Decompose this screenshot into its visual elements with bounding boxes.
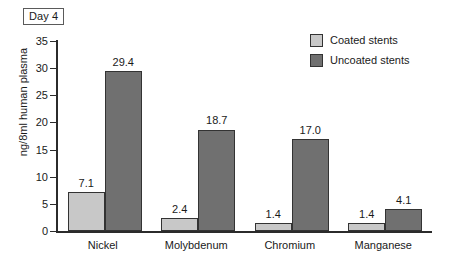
bar-manganese-uncoated[interactable] bbox=[385, 209, 422, 231]
bar-value-label: 18.7 bbox=[194, 115, 239, 126]
bar-value-label: 1.4 bbox=[251, 209, 296, 220]
category-label-manganese: Manganese bbox=[327, 239, 441, 251]
bar-chart: Day 4 ng/8ml human plasma 05101520253035… bbox=[0, 0, 449, 269]
y-tick-label: 35 bbox=[4, 36, 48, 47]
bar-value-label: 1.4 bbox=[344, 209, 389, 220]
legend-label-coated: Coated stents bbox=[330, 34, 398, 46]
y-tick-label: 10 bbox=[4, 172, 48, 183]
bar-chromium-uncoated[interactable] bbox=[292, 139, 329, 231]
bar-molybdenum-coated[interactable] bbox=[161, 218, 198, 231]
bar-molybdenum-uncoated[interactable] bbox=[198, 130, 235, 232]
bar-value-label: 4.1 bbox=[381, 195, 426, 206]
legend-swatch-uncoated-icon bbox=[310, 54, 323, 67]
y-tick-label: 5 bbox=[4, 199, 48, 210]
bar-value-label: 29.4 bbox=[101, 57, 146, 68]
bar-chromium-coated[interactable] bbox=[255, 223, 292, 231]
bar-value-label: 17.0 bbox=[288, 125, 333, 136]
legend-label-uncoated: Uncoated stents bbox=[330, 54, 410, 66]
y-tick-label: 20 bbox=[4, 117, 48, 128]
y-tick-mark bbox=[50, 231, 56, 232]
y-tick-label: 25 bbox=[4, 90, 48, 101]
x-axis-line bbox=[56, 231, 432, 233]
bar-nickel-coated[interactable] bbox=[68, 192, 105, 231]
legend-item-uncoated[interactable]: Uncoated stents bbox=[310, 52, 410, 68]
bar-nickel-uncoated[interactable] bbox=[105, 71, 142, 231]
legend: Coated stents Uncoated stents bbox=[310, 32, 410, 72]
day-badge: Day 4 bbox=[23, 8, 64, 25]
y-tick-label: 30 bbox=[4, 63, 48, 74]
bar-value-label: 2.4 bbox=[157, 204, 202, 215]
bar-manganese-coated[interactable] bbox=[348, 223, 385, 231]
legend-item-coated[interactable]: Coated stents bbox=[310, 32, 410, 48]
y-tick-label: 15 bbox=[4, 145, 48, 156]
y-tick-label: 0 bbox=[4, 226, 48, 237]
bar-value-label: 7.1 bbox=[64, 178, 109, 189]
legend-swatch-coated-icon bbox=[310, 34, 323, 47]
